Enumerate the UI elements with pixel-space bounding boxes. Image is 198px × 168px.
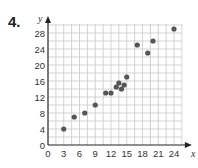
data-point xyxy=(135,42,140,47)
data-point xyxy=(124,74,129,79)
data-point xyxy=(93,102,98,107)
x-tick-label: 21 xyxy=(153,148,164,159)
data-point xyxy=(82,110,87,115)
y-tick-label: 0 xyxy=(40,140,45,151)
x-tick-label: 0 xyxy=(45,148,50,159)
y-tick-label: 4 xyxy=(40,124,45,135)
data-point xyxy=(122,82,127,87)
y-axis-arrow-icon xyxy=(45,16,51,23)
y-tick-label: 12 xyxy=(34,92,45,103)
x-axis-label: x xyxy=(190,148,196,159)
data-point xyxy=(171,26,176,31)
data-point xyxy=(145,50,150,55)
scatter-plot: 036912151821240481216202428xy xyxy=(0,0,198,168)
data-point xyxy=(72,114,77,119)
x-tick-label: 15 xyxy=(121,148,132,159)
x-tick-label: 24 xyxy=(169,148,180,159)
y-tick-label: 16 xyxy=(34,76,45,87)
data-point xyxy=(116,80,121,85)
data-point xyxy=(108,90,113,95)
x-tick-label: 9 xyxy=(93,148,98,159)
y-tick-label: 20 xyxy=(34,60,45,71)
data-point xyxy=(103,90,108,95)
x-tick-label: 6 xyxy=(77,148,82,159)
data-point xyxy=(150,38,155,43)
data-point xyxy=(61,126,66,131)
y-tick-label: 8 xyxy=(40,108,45,119)
x-tick-label: 3 xyxy=(61,148,66,159)
x-tick-label: 12 xyxy=(106,148,117,159)
y-tick-label: 24 xyxy=(34,44,45,55)
x-tick-label: 18 xyxy=(137,148,148,159)
y-axis-label: y xyxy=(37,13,43,24)
y-tick-label: 28 xyxy=(34,28,45,39)
